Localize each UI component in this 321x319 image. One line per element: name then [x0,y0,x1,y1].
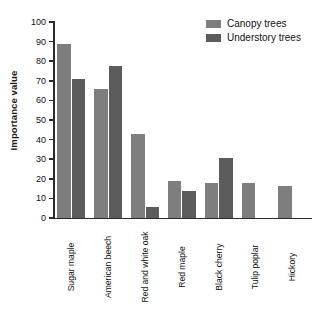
y-tick-label-90: 90 [0,37,46,47]
bar-red-maple-canopy [168,181,182,218]
y-tick-label-0: 0 [0,213,46,223]
bar-american-beech-canopy [94,89,108,218]
y-axis-title: Importance value [2,0,26,220]
legend-label-canopy: Canopy trees [227,18,286,29]
x-axis-label-american-beech: American beech [101,222,115,318]
bar-red-and-white-oak-canopy [131,134,145,218]
x-axis-label-sugar-maple: Sugar maple [64,222,78,318]
x-axis-label-text: Red maple [177,246,187,288]
x-axis-label-black-cherry: Black cherry [212,222,226,318]
y-tick-label-80: 80 [0,56,46,66]
plot-area [54,22,312,218]
bar-black-cherry-canopy [205,183,219,218]
x-axis-label-tulip-poplar: Tulip poplar [249,222,263,318]
x-axis-label-red-maple: Red maple [175,222,189,318]
x-axis-label-text: Tulip poplar [251,245,261,290]
y-tick-label-100: 100 [0,17,46,27]
x-axis-label-red-and-white-oak: Red and white oak [138,222,152,318]
x-axis-label-text: Red and white oak [140,231,150,302]
bar-sugar-maple-understory [72,79,86,218]
legend: Canopy trees Understory trees [206,18,301,43]
legend-label-understory: Understory trees [227,32,301,43]
y-tick-label-20: 20 [0,174,46,184]
legend-swatch-understory-icon [206,34,221,42]
y-tick-label-70: 70 [0,76,46,86]
bar-red-and-white-oak-understory [146,207,160,218]
bar-hickory-canopy [278,186,292,218]
bar-black-cherry-understory [219,158,233,218]
y-tick-label-50: 50 [0,115,46,125]
y-tick-label-30: 30 [0,154,46,164]
bar-american-beech-understory [109,66,123,218]
bar-sugar-maple-canopy [57,44,71,218]
x-axis-label-text: Sugar maple [66,243,76,292]
bar-tulip-poplar-canopy [242,183,256,218]
y-tick-label-10: 10 [0,193,46,203]
x-axis-label-text: Black cherry [214,243,224,290]
x-axis-labels: Sugar mapleAmerican beechRed and white o… [54,220,312,319]
legend-swatch-canopy-icon [206,20,221,28]
y-tick-label-60: 60 [0,95,46,105]
bar-red-maple-understory [182,191,196,218]
bar-chart-figure: Importance value 1009080706050403020100 … [0,0,321,319]
x-axis-label-hickory: Hickory [285,222,299,318]
x-axis-label-text: American beech [103,236,113,298]
legend-item-understory[interactable]: Understory trees [206,32,301,43]
x-axis-label-text: Hickory [287,253,297,282]
y-tick-label-40: 40 [0,135,46,145]
legend-item-canopy[interactable]: Canopy trees [206,18,301,29]
